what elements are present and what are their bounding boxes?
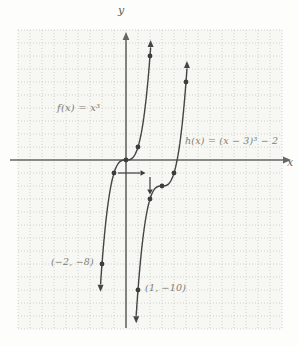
- data-point-f: [124, 158, 129, 163]
- data-point-h: [160, 184, 165, 189]
- data-point-h: [172, 171, 177, 176]
- data-point-f: [136, 145, 141, 150]
- h-point-coordinates-label: (1, −10): [145, 283, 186, 293]
- data-point-f: [112, 171, 117, 176]
- data-point-h: [148, 197, 153, 202]
- h-equation-label: h(x) = (x − 3)³ − 2: [185, 136, 278, 146]
- data-point-h: [136, 288, 141, 293]
- data-point-h: [184, 80, 189, 85]
- x-axis-label: x: [287, 157, 293, 169]
- graph-svg: [0, 0, 298, 346]
- graph-figure: y x f(x) = x³ h(x) = (x − 3)³ − 2 (−2, −…: [0, 0, 298, 346]
- data-point-f: [148, 54, 153, 59]
- f-equation-label: f(x) = x³: [57, 102, 100, 113]
- y-axis-label: y: [118, 5, 124, 17]
- data-point-f: [100, 262, 105, 267]
- f-point-coordinates-label: (−2, −8): [36, 257, 94, 267]
